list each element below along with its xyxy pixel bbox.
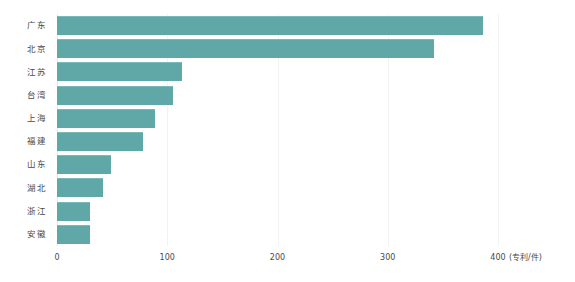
bar[interactable] — [57, 86, 173, 105]
bar-chart: 广东北京江苏台湾上海福建山东湖北浙江安徽 (专利/件) 010020030040… — [0, 0, 575, 282]
value-axis: (专利/件) 0100200300400 — [57, 246, 498, 270]
bar-row[interactable] — [57, 200, 498, 223]
bar[interactable] — [57, 155, 111, 174]
bar[interactable] — [57, 178, 103, 197]
bar[interactable] — [57, 132, 143, 151]
value-axis-tick-0: 0 — [54, 254, 59, 262]
category-label: 台湾 — [27, 91, 46, 100]
bar[interactable] — [57, 202, 90, 221]
category-label-row: 福建 — [0, 130, 52, 153]
category-label: 湖北 — [27, 184, 46, 193]
plot-area — [57, 14, 498, 246]
category-label: 安徽 — [27, 230, 46, 239]
bar[interactable] — [57, 225, 90, 244]
category-label-row: 山东 — [0, 153, 52, 176]
value-axis-tick-100: 100 — [160, 254, 175, 262]
bar-row[interactable] — [57, 37, 498, 60]
bar[interactable] — [57, 16, 483, 35]
category-label: 江苏 — [27, 68, 46, 77]
bar-rows — [57, 14, 498, 246]
category-label: 福建 — [27, 137, 46, 146]
bar-row[interactable] — [57, 107, 498, 130]
category-label-row: 北京 — [0, 37, 52, 60]
category-label: 北京 — [27, 45, 46, 54]
category-label-row: 台湾 — [0, 84, 52, 107]
category-label: 浙江 — [27, 207, 46, 216]
bar-row[interactable] — [57, 14, 498, 37]
value-axis-tick-400: 400 — [490, 254, 505, 262]
bar-row[interactable] — [57, 153, 498, 176]
category-label: 上海 — [27, 114, 46, 123]
value-axis-tick-200: 200 — [270, 254, 285, 262]
bar-row[interactable] — [57, 84, 498, 107]
bar-row[interactable] — [57, 223, 498, 246]
category-label-row: 湖北 — [0, 176, 52, 199]
category-label-row: 安徽 — [0, 223, 52, 246]
category-label-row: 上海 — [0, 107, 52, 130]
category-axis-labels: 广东北京江苏台湾上海福建山东湖北浙江安徽 — [0, 14, 52, 246]
value-axis-tick-300: 300 — [380, 254, 395, 262]
category-label-row: 浙江 — [0, 200, 52, 223]
bar[interactable] — [57, 109, 155, 128]
category-label-row: 广东 — [0, 14, 52, 37]
bar[interactable] — [57, 62, 182, 81]
category-label-row: 江苏 — [0, 60, 52, 83]
category-label: 山东 — [27, 160, 46, 169]
bar-row[interactable] — [57, 176, 498, 199]
bar-row[interactable] — [57, 60, 498, 83]
value-axis-unit-label: (专利/件) — [509, 254, 542, 262]
category-label: 广东 — [27, 21, 46, 30]
bar[interactable] — [57, 39, 434, 58]
bar-row[interactable] — [57, 130, 498, 153]
gridline-400 — [498, 14, 499, 246]
